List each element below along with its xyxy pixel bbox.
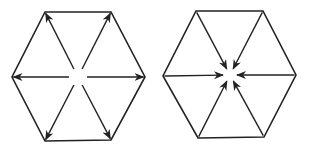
hexagon-outward-arrows (12, 12, 145, 141)
arrow-icon (197, 12, 227, 68)
arrow-icon (199, 81, 227, 136)
arrow-icon (82, 13, 110, 69)
hexagon-inward-arrows (163, 11, 296, 138)
diagram-canvas (0, 0, 309, 151)
arrow-icon (164, 75, 223, 76)
arrow-icon (233, 81, 263, 136)
arrow-icon (46, 85, 74, 140)
arrow-icon (46, 13, 74, 69)
arrow-icon (82, 85, 110, 139)
arrow-icon (233, 12, 262, 68)
